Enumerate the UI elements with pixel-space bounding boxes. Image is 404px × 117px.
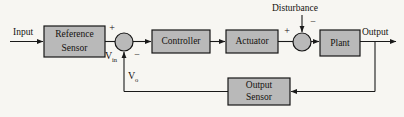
v-in-label: V in: [105, 50, 118, 63]
diagram-canvas: Reference Sensor Controller Actuator Pla…: [0, 0, 404, 117]
block-output-sensor[interactable]: Output Sensor: [228, 78, 290, 105]
v-o-label-subscript: o: [135, 76, 138, 83]
v-in-label-subscript: in: [112, 56, 118, 63]
error-junction-plus-sign: +: [109, 22, 115, 33]
block-output-sensor-label-line1: Output: [246, 80, 273, 90]
block-reference-sensor-label-line1: Reference: [55, 29, 94, 39]
block-actuator[interactable]: Actuator: [226, 30, 278, 53]
v-o-label: V o: [128, 70, 138, 83]
input-signal-label: Input: [13, 27, 33, 37]
block-plant[interactable]: Plant: [320, 30, 360, 56]
error-summing-junction[interactable]: [115, 33, 133, 51]
error-junction-minus-sign: −: [134, 49, 140, 60]
block-reference-sensor-label-line2: Sensor: [62, 43, 89, 53]
block-controller[interactable]: Controller: [152, 30, 210, 53]
disturbance-summing-junction[interactable]: [293, 33, 311, 51]
block-output-sensor-label-line2: Sensor: [246, 92, 273, 102]
block-actuator-label: Actuator: [235, 36, 269, 46]
disturbance-signal-label: Disturbance: [272, 3, 318, 13]
disturbance-junction-minus-sign: −: [310, 16, 316, 27]
block-controller-label: Controller: [161, 36, 201, 46]
control-system-block-diagram: Reference Sensor Controller Actuator Pla…: [0, 0, 404, 117]
output-signal-label: Output: [362, 27, 389, 37]
block-reference-sensor[interactable]: Reference Sensor: [44, 26, 105, 57]
disturbance-junction-plus-sign: +: [284, 25, 290, 36]
block-plant-label: Plant: [330, 38, 350, 48]
